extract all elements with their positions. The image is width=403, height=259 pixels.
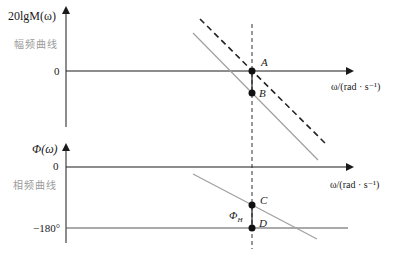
phase-zero-tick: 0 <box>53 161 59 172</box>
phase-y-axis-label: Φ(ω) <box>32 143 58 155</box>
point-A-label: A <box>261 57 268 68</box>
magnitude-zero-tick: 0 <box>54 66 60 77</box>
point-C <box>249 202 256 209</box>
phase-margin-subscript: H <box>237 216 242 224</box>
phase-x-axis-label: ω/(rad · s⁻¹) <box>330 180 379 190</box>
phase-side-label: 相频曲线 <box>13 181 57 191</box>
point-D <box>249 225 256 232</box>
bode-diagram-canvas <box>0 0 403 259</box>
magnitude-x-axis-label: ω/(rad · s⁻¹) <box>331 82 380 92</box>
magnitude-dashed-curve <box>200 19 325 143</box>
magnitude-y-axis-label: 20lgM(ω) <box>8 10 56 22</box>
magnitude-gray-curve <box>193 33 318 160</box>
magnitude-y-label-text: 20lgM(ω) <box>8 9 56 23</box>
point-B <box>249 90 256 97</box>
point-D-label: D <box>259 218 267 229</box>
phase-margin-label: ΦH <box>229 210 242 224</box>
phase-minus180-tick: −180° <box>33 223 60 234</box>
point-C-label: C <box>260 195 267 206</box>
point-B-label: B <box>259 88 266 99</box>
point-A <box>249 68 256 75</box>
magnitude-side-label: 幅频曲线 <box>14 40 58 50</box>
